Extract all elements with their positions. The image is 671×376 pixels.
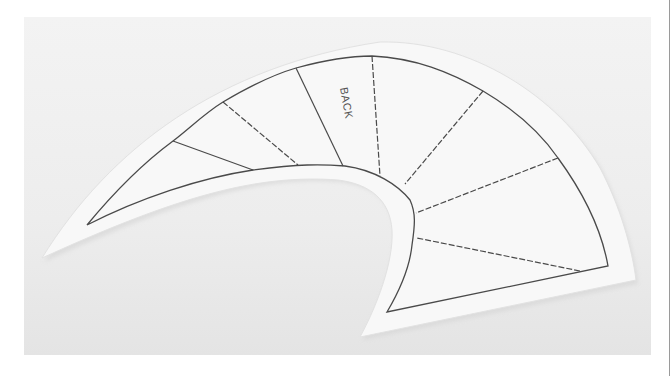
felt-piece — [42, 42, 636, 337]
pattern-illustration: BACK — [0, 0, 671, 376]
